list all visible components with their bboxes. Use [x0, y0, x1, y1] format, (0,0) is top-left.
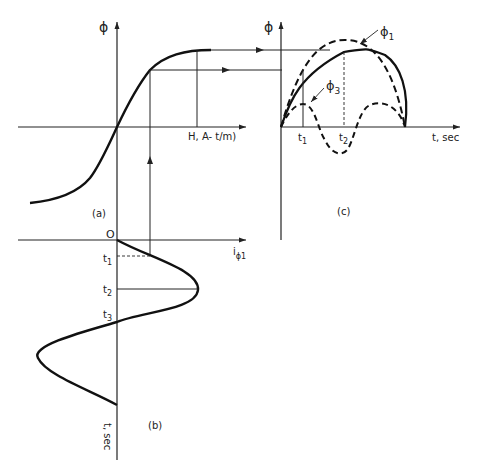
arrow-up-icon: [147, 156, 153, 164]
arrow-right-icon: [222, 67, 230, 73]
phi3-pointer: [311, 88, 324, 102]
tick-t3-b: t3: [103, 309, 112, 323]
magnetization-diagram: ϕ H, A- t/m) (a) O iϕ1 t1 t2 t3 t, sec (…: [0, 0, 478, 473]
origin-label: O: [106, 228, 115, 241]
t-axis-label-b: t, sec: [102, 423, 113, 450]
phi-label-c: ϕ: [264, 19, 273, 35]
panel-b: O iϕ1 t1 t2 t3 t, sec (b): [18, 228, 246, 450]
current-curve: [37, 240, 198, 405]
h-axis-label: H, A- t/m): [188, 131, 236, 142]
phi3-label: ϕ3: [326, 78, 340, 96]
panel-b-label: (b): [148, 420, 162, 431]
phi1-pointer: [360, 30, 378, 44]
i-axis-label: iϕ1: [233, 246, 246, 261]
t-axis-label-c: t, sec: [432, 132, 459, 143]
tick-t2-c: t2: [339, 132, 348, 146]
i-axis-label-sub: ϕ1: [236, 252, 246, 261]
panel-c: ϕ ϕ1 ϕ3 t1 t2 t, sec (c): [264, 19, 460, 240]
tick-t1-b: t1: [103, 253, 112, 267]
panel-a-label: (a): [92, 208, 106, 219]
arrow-right-icon: [256, 47, 264, 53]
phi-label-a: ϕ: [99, 19, 108, 35]
tick-t2-b: t2: [103, 284, 112, 298]
phi1-label: ϕ1: [380, 24, 394, 42]
panel-c-label: (c): [337, 206, 350, 217]
tick-t1-c: t1: [298, 132, 307, 146]
